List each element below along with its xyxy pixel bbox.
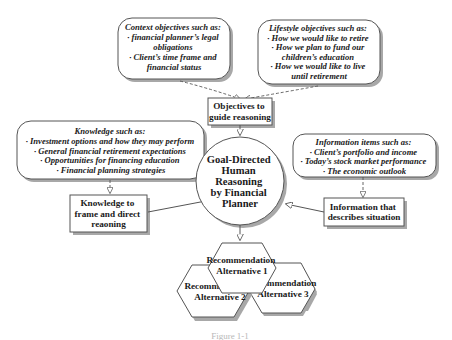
knowledge-box: Knowledge to frame and direct reaoning bbox=[70, 195, 150, 235]
alt1-text: Recommendation Alternative 1 bbox=[206, 255, 277, 276]
center-goal-directed-reasoning: Goal-Directed Human Reasoning by Financi… bbox=[196, 137, 287, 228]
objectives-box: Objectives to guide reasoning bbox=[208, 98, 275, 128]
information-box-text: Information that describes situation bbox=[328, 202, 401, 223]
figure-caption: Figure 1-1 bbox=[211, 331, 249, 340]
information-to-center-arrow bbox=[286, 204, 324, 212]
diagram-canvas: Context objectives such as: · financial … bbox=[0, 0, 452, 340]
context-objectives-callout: Context objectives such as: · financial … bbox=[118, 18, 233, 82]
knowledge-callout: Knowledge such as: · Investment options … bbox=[17, 121, 207, 182]
objectives-box-text: Objectives to guide reasoning bbox=[209, 101, 271, 122]
lifestyle-objectives-callout: Lifestyle objectives such as: · How we w… bbox=[258, 20, 383, 87]
context-to-objectives-connector bbox=[180, 81, 240, 99]
lifestyle-to-objectives-connector bbox=[245, 86, 318, 99]
information-callout: Information items such as: · Client’s po… bbox=[293, 134, 439, 180]
information-box: Information that describes situation bbox=[324, 198, 407, 229]
